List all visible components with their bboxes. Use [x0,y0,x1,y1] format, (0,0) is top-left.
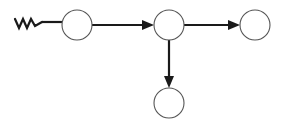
arrowhead-center-to-bottom [164,76,174,88]
node-bottom[interactable] [154,88,184,118]
node-graph-svg [0,0,284,126]
squiggle-source-marker [15,19,42,28]
diagram-canvas [0,0,284,126]
node-right[interactable] [240,10,270,40]
node-center[interactable] [154,10,184,40]
node-left[interactable] [62,10,92,40]
arrowhead-center-to-right [228,20,240,30]
arrowhead-left-to-center [142,20,154,30]
